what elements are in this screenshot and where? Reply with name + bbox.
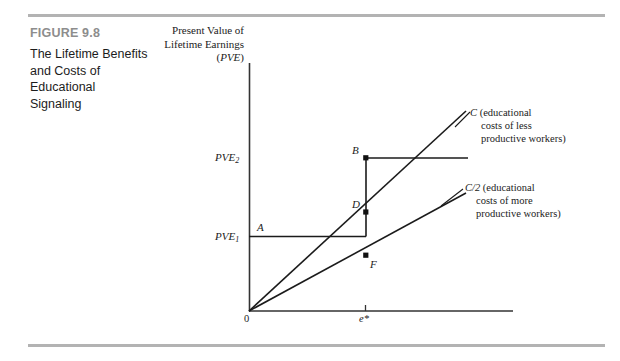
curve-label-c-symbol: C: [470, 107, 477, 118]
y-axis-title-pve-symbol: PVE: [220, 51, 240, 63]
leader-line-c2-label: [441, 189, 463, 206]
point-label-b: B: [352, 144, 359, 157]
curve-label-c: C (educationalcosts of lessproductive wo…: [470, 106, 566, 145]
point-label-d: D: [352, 198, 360, 211]
point-marker-f: [363, 253, 368, 258]
curve-label-c-line3: productive workers): [470, 132, 566, 145]
x-tick-label-estar-star: *: [364, 313, 369, 324]
curve-label-c2-line1: (educational: [480, 182, 535, 193]
point-marker-d: [363, 209, 368, 214]
point-marker-b: [363, 155, 368, 160]
point-label-f: F: [370, 258, 377, 271]
curve-label-c2: C/2 (educationalcosts of moreproductive …: [465, 181, 561, 220]
curve-label-c2-symbol: C/2: [465, 182, 480, 193]
y-tick-label-pve1-symbol: PVE: [215, 230, 235, 242]
y-tick-label-pve2-symbol: PVE: [215, 151, 235, 163]
figure-page: FIGURE 9.8 The Lifetime Benefits and Cos…: [0, 0, 620, 361]
curve-label-c-line1: (educational: [477, 107, 532, 118]
y-tick-label-pve1: PVE1: [215, 230, 239, 246]
y-tick-label-pve2: PVE2: [215, 151, 239, 167]
y-axis-title-line2: Lifetime Earnings: [164, 38, 244, 50]
curve-label-c2-line2: costs of more: [465, 194, 561, 207]
curve-label-c2-line3: productive workers): [465, 207, 561, 220]
y-axis-title: Present Value ofLifetime Earnings(PVE): [152, 24, 244, 65]
x-tick-label-estar: e*: [359, 312, 369, 325]
y-tick-label-pve1-subscript: 1: [235, 235, 239, 244]
origin-label: 0: [244, 312, 249, 325]
plot-area: Present Value ofLifetime Earnings(PVE) P…: [0, 0, 620, 361]
y-tick-label-pve2-subscript: 2: [235, 156, 239, 165]
y-axis-title-line1: Present Value of: [172, 24, 244, 36]
curve-label-c-line2: costs of less: [470, 119, 566, 132]
y-axis-title-paren-close: ): [240, 51, 244, 63]
point-label-a: A: [257, 221, 264, 234]
